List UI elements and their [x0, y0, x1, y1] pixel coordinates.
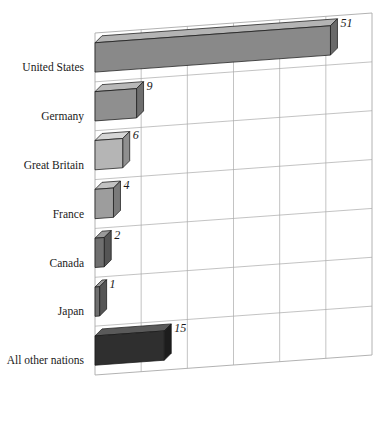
value-label: 6: [133, 129, 139, 141]
value-label: 2: [114, 229, 120, 241]
value-label: 15: [174, 322, 186, 334]
value-label: 51: [340, 17, 352, 29]
value-label: 4: [123, 179, 129, 191]
value-data-labels: 519642115: [0, 0, 380, 440]
value-label: 9: [147, 80, 153, 92]
chart-container: United StatesGermanyGreat BritainFranceC…: [0, 0, 380, 440]
value-label: 1: [110, 278, 116, 290]
